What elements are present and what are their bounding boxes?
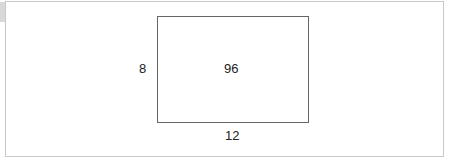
height-label: 8 xyxy=(139,62,146,75)
area-label: 96 xyxy=(224,62,238,75)
width-label: 12 xyxy=(225,129,239,142)
